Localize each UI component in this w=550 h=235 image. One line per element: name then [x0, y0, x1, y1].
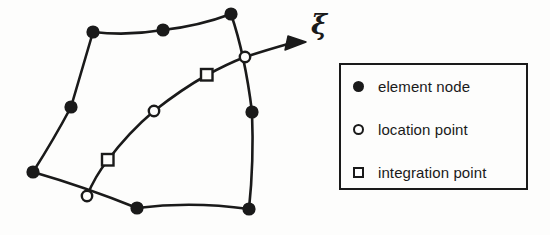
open-circle-icon — [347, 124, 369, 135]
element-node-group — [26, 7, 258, 215]
figure-canvas: ξ element node location point integratio… — [0, 0, 550, 235]
legend-item-integration-point: integration point — [347, 162, 486, 182]
open-square-icon — [347, 167, 369, 178]
location-point-group — [82, 52, 250, 201]
element-node — [130, 201, 143, 214]
legend-label-location-point: location point — [378, 122, 468, 137]
legend-item-location-point: location point — [347, 119, 468, 139]
element-node — [224, 7, 237, 20]
integration-point-group — [102, 69, 213, 166]
element-node — [26, 165, 39, 178]
element-node — [64, 100, 77, 113]
xi-axis-label: ξ — [311, 11, 327, 38]
element-node — [242, 202, 255, 215]
legend-label-element-node: element node — [378, 79, 470, 94]
element-boundary-path — [33, 14, 253, 209]
xi-arrow-head — [285, 36, 306, 50]
location-point — [149, 106, 159, 116]
legend-label-integration-point: integration point — [378, 165, 486, 180]
integration-point — [102, 154, 114, 166]
element-node — [156, 23, 169, 36]
location-point — [240, 52, 250, 62]
integration-point — [201, 69, 213, 81]
filled-circle-icon — [347, 81, 369, 92]
location-point — [82, 191, 92, 201]
legend-item-element-node: element node — [347, 76, 470, 96]
xi-arrow-shaft — [245, 44, 288, 57]
element-node — [86, 25, 99, 38]
legend-box: element node location point integration … — [339, 63, 528, 190]
xi-curve-path — [87, 57, 245, 196]
element-node — [245, 105, 258, 118]
